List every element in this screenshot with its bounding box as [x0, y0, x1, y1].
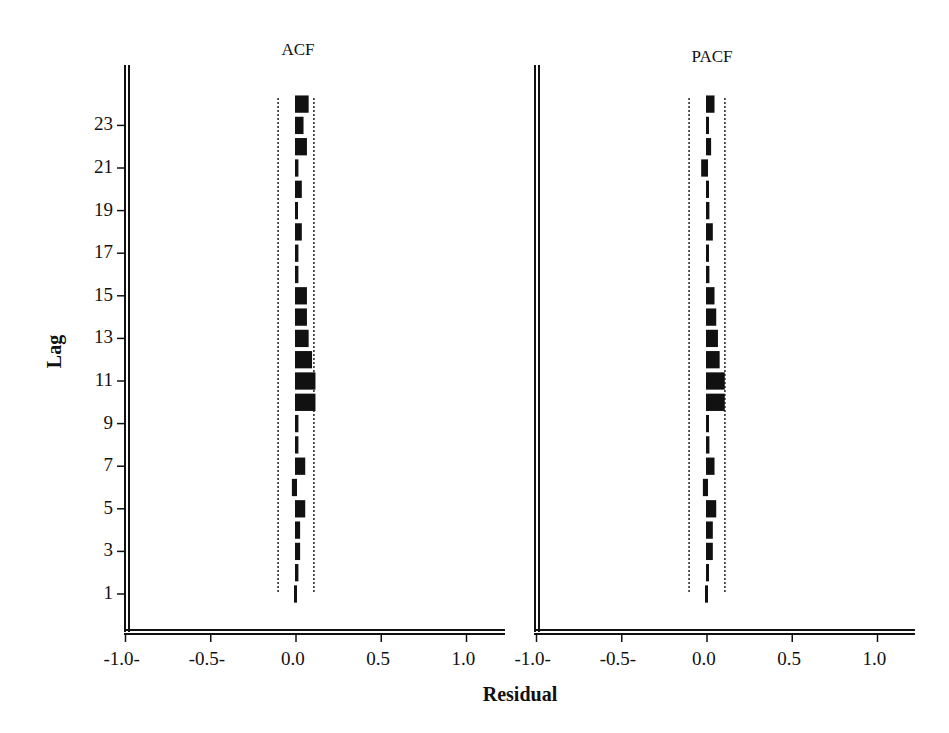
correlation-bar — [295, 564, 298, 581]
correlation-bar — [295, 394, 315, 411]
correlation-bar — [295, 330, 309, 347]
x-tick-label: -0.5- — [189, 648, 225, 670]
plot-canvas — [0, 0, 949, 733]
y-tick-label: 9 — [73, 412, 113, 434]
correlation-bar — [295, 266, 298, 283]
x-tick-label: 1.0 — [863, 648, 887, 670]
correlation-bar — [706, 202, 709, 219]
x-tick-label: 1.0 — [452, 648, 476, 670]
correlation-bar — [706, 351, 720, 368]
x-tick-label: 0.5 — [777, 648, 801, 670]
y-tick-label: 11 — [73, 369, 113, 391]
y-axis-label: Lag — [43, 335, 66, 368]
x-tick-label: 0.0 — [692, 648, 716, 670]
correlation-bar — [705, 585, 708, 602]
correlation-bar — [706, 266, 709, 283]
x-tick-label: 0.0 — [281, 648, 305, 670]
correlation-bar — [295, 95, 309, 112]
correlation-bar — [706, 308, 716, 325]
correlation-bar — [295, 543, 300, 560]
correlation-bar — [706, 521, 713, 538]
y-tick-label: 23 — [73, 113, 113, 135]
acf-pacf-figure: ACF PACF Lag Residual -1.0--0.5-0.00.51.… — [0, 0, 949, 733]
correlation-bar — [295, 181, 302, 198]
correlation-bar — [706, 330, 718, 347]
correlation-bar — [706, 95, 715, 112]
correlation-bar — [295, 287, 307, 304]
x-axis-label: Residual — [420, 683, 620, 706]
y-tick-label: 7 — [73, 454, 113, 476]
correlation-bar — [295, 436, 298, 453]
x-tick-label: -1.0- — [104, 648, 140, 670]
correlation-bar — [295, 308, 307, 325]
correlation-bar — [706, 500, 716, 517]
correlation-bar — [706, 543, 713, 560]
correlation-bar — [706, 564, 709, 581]
x-tick-label: 0.5 — [366, 648, 390, 670]
correlation-bar — [295, 500, 305, 517]
correlation-bar — [706, 436, 709, 453]
correlation-bar — [706, 138, 711, 155]
correlation-bar — [295, 458, 305, 475]
y-tick-label: 17 — [73, 241, 113, 263]
correlation-bar — [706, 415, 709, 432]
correlation-bar — [706, 117, 709, 134]
y-tick-label: 21 — [73, 156, 113, 178]
y-tick-label: 1 — [73, 582, 113, 604]
correlation-bar — [295, 245, 298, 262]
correlation-bar — [706, 287, 715, 304]
correlation-bar — [294, 585, 297, 602]
y-tick-label: 3 — [73, 539, 113, 561]
acf-title: ACF — [238, 40, 358, 60]
y-tick-label: 15 — [73, 284, 113, 306]
correlation-bar — [295, 415, 298, 432]
correlation-bar — [295, 351, 312, 368]
x-tick-label: -0.5- — [600, 648, 636, 670]
correlation-bar — [706, 372, 725, 389]
correlation-bar — [295, 117, 304, 134]
y-tick-label: 19 — [73, 199, 113, 221]
correlation-bar — [295, 372, 315, 389]
correlation-bar — [295, 223, 302, 240]
y-tick-label: 5 — [73, 497, 113, 519]
correlation-bar — [706, 458, 715, 475]
correlation-bar — [703, 479, 708, 496]
correlation-bar — [295, 159, 298, 176]
y-tick-label: 13 — [73, 326, 113, 348]
correlation-bar — [701, 159, 708, 176]
correlation-bar — [706, 394, 725, 411]
correlation-bar — [295, 202, 298, 219]
pacf-title: PACF — [652, 47, 772, 67]
correlation-bar — [706, 223, 713, 240]
correlation-bar — [295, 138, 307, 155]
correlation-bar — [295, 521, 300, 538]
x-tick-label: -1.0- — [515, 648, 551, 670]
correlation-bar — [706, 245, 709, 262]
correlation-bar — [706, 181, 709, 198]
correlation-bar — [292, 479, 297, 496]
